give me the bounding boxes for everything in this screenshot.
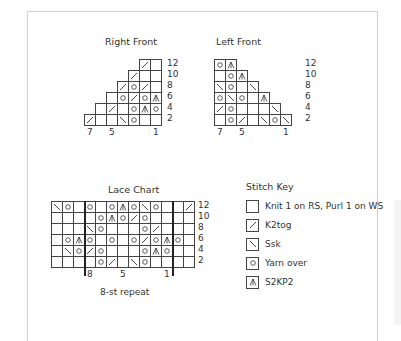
ssk-icon bbox=[248, 239, 258, 249]
k2tog-icon bbox=[129, 71, 139, 81]
chart-cell bbox=[183, 256, 195, 268]
yarn-over-icon bbox=[151, 235, 161, 245]
row-number: 6 bbox=[198, 233, 204, 243]
column-number: 8 bbox=[87, 269, 93, 279]
yarn-over-icon bbox=[107, 202, 117, 212]
row-number: 8 bbox=[167, 80, 173, 90]
yarn-over-icon bbox=[226, 115, 236, 125]
yarn-over-icon bbox=[96, 224, 106, 234]
yarn-over-icon bbox=[215, 60, 225, 70]
k2tog-icon bbox=[246, 219, 259, 232]
column-number: 5 bbox=[239, 127, 245, 137]
scrollbar-track[interactable] bbox=[394, 200, 401, 325]
row-number: 8 bbox=[305, 80, 311, 90]
figure-frame bbox=[27, 11, 378, 341]
s2kp2-icon bbox=[248, 277, 258, 287]
k2tog-icon bbox=[215, 104, 225, 114]
yarn-over-icon bbox=[129, 235, 139, 245]
ssk-icon bbox=[140, 202, 150, 212]
repeat-label: 8-st repeat bbox=[100, 287, 149, 297]
key-item: Knit 1 on RS, Purl 1 on WS bbox=[246, 199, 383, 213]
k2tog-icon bbox=[237, 115, 247, 125]
yarn-over-icon bbox=[140, 246, 150, 256]
s2kp2-icon bbox=[118, 202, 128, 212]
yarn-over-icon bbox=[63, 202, 73, 212]
column-number: 1 bbox=[283, 127, 289, 137]
row-number: 10 bbox=[167, 69, 178, 79]
k2tog-icon bbox=[184, 202, 194, 212]
s2kp2-icon bbox=[140, 104, 150, 114]
key-label: Ssk bbox=[265, 239, 281, 249]
ssk-icon bbox=[52, 202, 62, 212]
key-label: S2KP2 bbox=[265, 277, 294, 287]
yarn-over-icon bbox=[140, 224, 150, 234]
ssk-icon bbox=[259, 115, 269, 125]
yarn-over-icon bbox=[140, 257, 150, 267]
k2tog-icon bbox=[129, 213, 139, 223]
yarn-over-icon bbox=[237, 93, 247, 103]
k2tog-icon bbox=[248, 220, 258, 230]
row-number: 2 bbox=[167, 113, 173, 123]
s2kp2-icon bbox=[226, 60, 236, 70]
key-item: K2tog bbox=[246, 218, 291, 232]
repeat-boundary-line bbox=[84, 201, 86, 276]
row-number: 10 bbox=[305, 69, 316, 79]
ssk-icon bbox=[85, 224, 95, 234]
column-number: 5 bbox=[109, 127, 115, 137]
yarn-over-icon bbox=[129, 202, 139, 212]
row-number: 6 bbox=[305, 91, 311, 101]
s2kp2-icon bbox=[151, 93, 161, 103]
k2tog-icon bbox=[107, 257, 117, 267]
row-number: 6 bbox=[167, 91, 173, 101]
ssk-icon bbox=[129, 257, 139, 267]
yarn-over-icon bbox=[215, 93, 225, 103]
column-number: 5 bbox=[120, 269, 126, 279]
column-number: 1 bbox=[164, 269, 170, 279]
ssk-icon bbox=[281, 115, 291, 125]
row-number: 8 bbox=[198, 222, 204, 232]
yarn-over-icon bbox=[129, 82, 139, 92]
knit-icon bbox=[246, 200, 259, 213]
yarn-over-icon bbox=[118, 93, 128, 103]
s2kp2-icon bbox=[162, 235, 172, 245]
chart-cell bbox=[280, 114, 292, 126]
key-label: Knit 1 on RS, Purl 1 on WS bbox=[265, 201, 383, 211]
chart-cell bbox=[150, 114, 162, 126]
s2kp2-icon bbox=[107, 213, 117, 223]
key-item: Ssk bbox=[246, 237, 281, 251]
yarn-over-icon bbox=[226, 82, 236, 92]
s2kp2-icon bbox=[237, 71, 247, 81]
column-number: 7 bbox=[87, 127, 93, 137]
yarn-over-icon bbox=[129, 104, 139, 114]
yarn-over-icon bbox=[118, 213, 128, 223]
k2tog-icon bbox=[140, 82, 150, 92]
yarn-over-icon bbox=[140, 213, 150, 223]
row-number: 4 bbox=[198, 244, 204, 254]
k2tog-icon bbox=[151, 224, 161, 234]
k2tog-icon bbox=[85, 115, 95, 125]
yarn-over-icon bbox=[96, 257, 106, 267]
yarn-over-icon bbox=[63, 235, 73, 245]
k2tog-icon bbox=[85, 246, 95, 256]
row-number: 4 bbox=[305, 102, 311, 112]
k2tog-icon bbox=[107, 104, 117, 114]
yarn-over-icon bbox=[173, 235, 183, 245]
row-number: 12 bbox=[198, 200, 209, 210]
lace-chart-title: Lace Chart bbox=[108, 184, 159, 195]
row-number: 12 bbox=[305, 58, 316, 68]
k2tog-icon bbox=[140, 60, 150, 70]
yarn-over-icon bbox=[151, 104, 161, 114]
yarn-over-icon bbox=[248, 258, 258, 268]
yarn-over-icon bbox=[85, 235, 95, 245]
yarn-over-icon bbox=[151, 202, 161, 212]
stitch-key-title: Stitch Key bbox=[246, 181, 294, 192]
yarn-over-icon bbox=[140, 93, 150, 103]
yarn-over-icon bbox=[162, 246, 172, 256]
left-front-title: Left Front bbox=[216, 36, 261, 47]
row-number: 2 bbox=[305, 113, 311, 123]
s2kp2-icon bbox=[246, 276, 259, 289]
ssk-icon bbox=[226, 93, 236, 103]
repeat-boundary-line bbox=[172, 201, 174, 276]
column-number: 7 bbox=[217, 127, 223, 137]
yarn-over-icon bbox=[226, 104, 236, 114]
